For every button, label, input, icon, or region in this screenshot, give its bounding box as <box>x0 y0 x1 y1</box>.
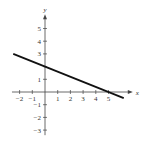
x-axis-label: x <box>135 89 140 97</box>
x-tick-label: 5 <box>107 95 111 103</box>
y-tick-label: 3 <box>38 50 42 58</box>
y-tick-label: −2 <box>34 114 42 122</box>
x-axis-arrow-icon <box>128 90 133 94</box>
y-tick-label: 5 <box>38 25 42 33</box>
data-line <box>13 54 123 98</box>
y-axis-label: y <box>43 6 48 14</box>
y-tick-label: 4 <box>38 38 42 46</box>
y-tick-label: −1 <box>34 101 42 109</box>
x-tick-label: −2 <box>16 95 24 103</box>
y-axis-arrow-icon <box>43 14 47 19</box>
y-tick-label: −3 <box>34 127 42 135</box>
x-tick-label: 4 <box>94 95 98 103</box>
x-tick-label: 2 <box>69 95 73 103</box>
line-chart: −2−112345−3−2−11345xy <box>0 0 149 145</box>
y-tick-label: 1 <box>38 76 42 84</box>
x-tick-label: 1 <box>56 95 60 103</box>
x-tick-label: 3 <box>81 95 85 103</box>
